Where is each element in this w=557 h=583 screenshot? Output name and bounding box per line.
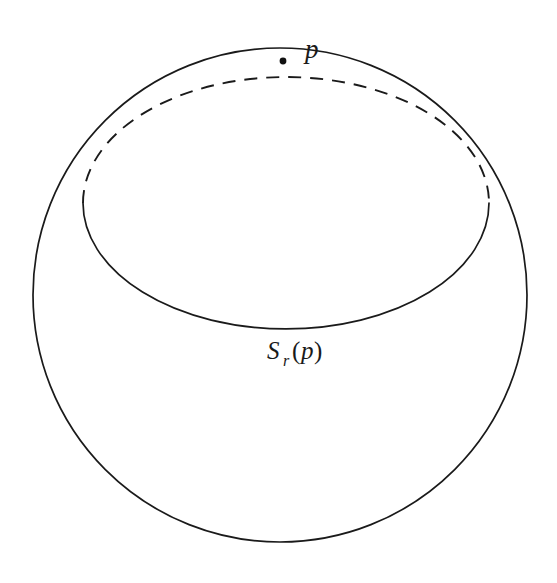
sphere-diagram-svg: p S r ( p ) [0,0,557,583]
geodesic-sphere-label-open-paren: ( [292,337,300,365]
geodesic-sphere-label: S r ( p ) [267,337,322,369]
geodesic-sphere-label-close-paren: ) [314,337,322,365]
geodesic-circle-back-arc [83,77,489,203]
figure-container: p S r ( p ) [0,0,557,583]
point-p-label: p [303,34,319,64]
geodesic-sphere-label-argument: p [299,337,314,364]
geodesic-sphere-label-subscript: r [283,352,290,369]
point-p-dot [280,58,287,65]
geodesic-circle-front-arc [83,203,489,329]
outer-sphere-outline [33,48,527,542]
geodesic-sphere-label-base: S [267,337,280,364]
